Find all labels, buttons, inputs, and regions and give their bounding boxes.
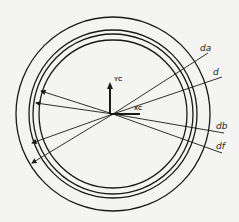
- da-leader: [113, 53, 208, 114]
- y-axis-label: YC: [114, 76, 123, 82]
- da-label: da: [200, 43, 211, 53]
- db-label: db: [216, 121, 228, 131]
- df-radius-arrow: [41, 91, 113, 114]
- d-leader: [113, 77, 222, 114]
- x-axis-label: XC: [134, 105, 143, 111]
- db-radius-arrow: [36, 103, 113, 114]
- d-label: d: [213, 67, 219, 77]
- gear-circles-diagram: YC XC da d db df: [0, 0, 239, 222]
- db-leader: [113, 114, 224, 133]
- coordinate-axes: YC XC: [107, 76, 143, 114]
- df-leader: [113, 114, 222, 153]
- df-label: df: [216, 141, 227, 151]
